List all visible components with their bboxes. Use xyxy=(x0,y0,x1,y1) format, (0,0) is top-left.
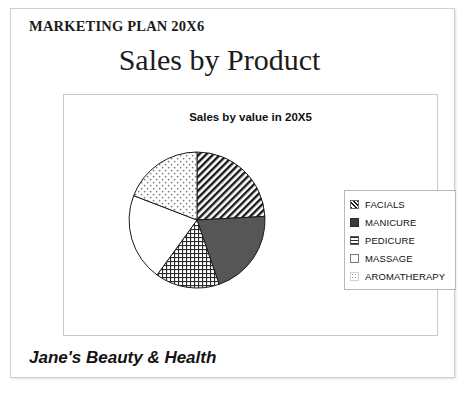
legend-item-facials[interactable]: FACIALS xyxy=(350,195,451,213)
legend-label: MASSAGE xyxy=(365,253,413,264)
pie-chart-plot-area[interactable] xyxy=(122,145,272,295)
legend-label: MANICURE xyxy=(365,217,416,228)
legend-item-pedicure[interactable]: PEDICURE xyxy=(350,231,451,249)
slide-frame: MARKETING PLAN 20X6 Sales by Product Sal… xyxy=(10,8,455,378)
dotted-swatch-icon xyxy=(350,272,359,281)
cross-hatch-swatch-icon xyxy=(350,236,359,245)
pie-slice-facials[interactable] xyxy=(197,152,265,220)
legend-item-manicure[interactable]: MANICURE xyxy=(350,213,451,231)
legend-item-aromatherapy[interactable]: AROMATHERAPY xyxy=(350,267,451,285)
solid-dark-swatch-icon xyxy=(350,218,359,227)
white-outline-swatch-icon xyxy=(350,254,359,263)
slide-kicker: MARKETING PLAN 20X6 xyxy=(29,18,204,35)
chart-title: Sales by value in 20X5 xyxy=(64,111,437,123)
slide-footer: Jane's Beauty & Health xyxy=(29,348,216,368)
diagonal-hatch-swatch-icon xyxy=(350,200,359,209)
legend-label: AROMATHERAPY xyxy=(365,271,445,282)
legend-item-massage[interactable]: MASSAGE xyxy=(350,249,451,267)
pie-chart-svg xyxy=(122,145,272,295)
legend-label: FACIALS xyxy=(365,199,405,210)
legend-label: PEDICURE xyxy=(365,235,415,246)
chart-object[interactable]: Sales by value in 20X5 xyxy=(63,94,438,336)
page-title: Sales by Product xyxy=(11,43,428,77)
chart-legend[interactable]: FACIALS MANICURE PEDICURE MASSAGE AROMAT… xyxy=(344,190,456,290)
